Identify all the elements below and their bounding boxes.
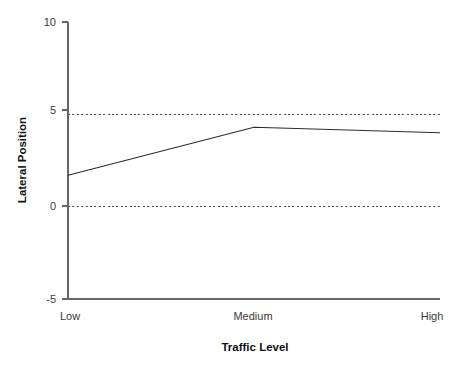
chart-figure: 10 5 0 -5 Low Medium High Lateral Positi…	[0, 0, 463, 370]
series-line-lateral-position	[68, 127, 440, 175]
x-category-label-low: Low	[60, 310, 80, 322]
y-tick-label-10: 10	[44, 16, 56, 28]
x-category-label-high: High	[421, 310, 444, 322]
y-tick-label-5: 5	[50, 104, 56, 116]
y-axis-title: Lateral Position	[16, 117, 28, 203]
line-chart-canvas: 10 5 0 -5 Low Medium High Lateral Positi…	[0, 0, 463, 370]
y-tick-label-minus-5: -5	[46, 293, 56, 305]
y-tick-label-0: 0	[50, 200, 56, 212]
x-axis-title: Traffic Level	[221, 341, 288, 353]
x-category-label-medium: Medium	[233, 310, 272, 322]
